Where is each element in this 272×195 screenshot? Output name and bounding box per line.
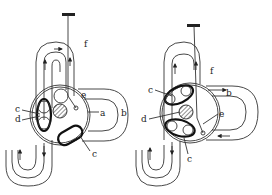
rotor-c-bottom: [56, 123, 85, 147]
label-b: b: [226, 88, 232, 98]
label-b: b: [121, 108, 127, 118]
label-d: d: [141, 114, 147, 124]
right-panel: c b f d e c: [136, 24, 258, 186]
label-f: f: [210, 66, 214, 76]
shaft-d: [53, 104, 67, 118]
bottom-duct: [18, 145, 36, 170]
label-e: e: [219, 109, 224, 119]
label-c-bottom: c: [92, 149, 97, 159]
label-c-bottom: c: [187, 154, 192, 164]
label-c-top: c: [15, 104, 20, 114]
diagram-canvas: f e c d a b c: [0, 0, 272, 195]
label-a: a: [100, 108, 106, 118]
handle-rod-f: [187, 24, 200, 118]
label-f: f: [84, 39, 88, 49]
label-e: e: [81, 90, 86, 100]
label-c-top: c: [148, 85, 153, 95]
label-d: d: [15, 114, 21, 124]
left-panel: f e c d a b c: [6, 13, 128, 186]
